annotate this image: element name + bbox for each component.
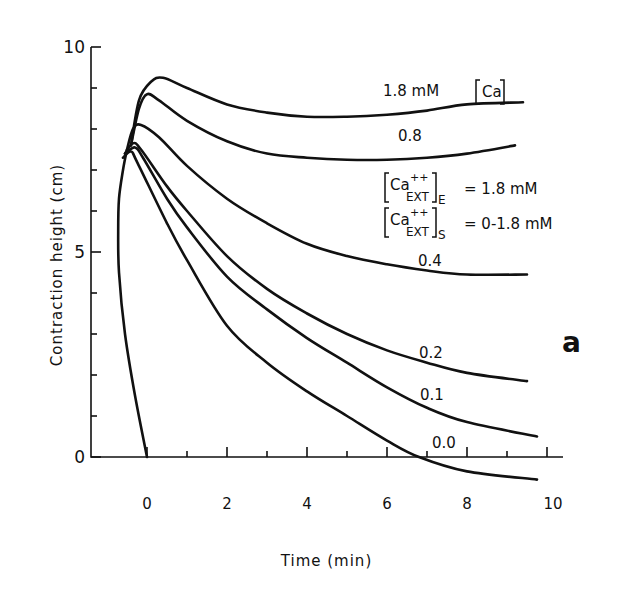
x-tick-label: 4 <box>302 495 312 513</box>
svg-text:++: ++ <box>410 206 428 219</box>
svg-text:EXT: EXT <box>406 190 430 204</box>
svg-text:S: S <box>438 228 446 242</box>
y-tick-label: 10 <box>63 37 85 57</box>
label-0-8: 0.8 <box>398 127 422 145</box>
label-0-0: 0.0 <box>432 434 456 452</box>
svg-text:E: E <box>438 193 446 207</box>
legend-ext-e-value: = 1.8 mM <box>464 180 538 198</box>
curve-0-8 <box>131 94 515 160</box>
curve-0-4 <box>127 124 527 274</box>
x-tick-label: 2 <box>222 495 232 513</box>
y-axis-label: Contraction height (cm) <box>48 164 66 366</box>
data-curves <box>118 77 537 479</box>
label-0-1: 0.1 <box>420 386 444 404</box>
ca-bracket-label: Ca <box>476 80 504 104</box>
x-axis-label: Time (min) <box>0 552 637 570</box>
curve-0-2 <box>125 143 527 381</box>
legend-ext-e: Ca ++ EXT E = 1.8 mM <box>385 171 538 207</box>
panel-label: a <box>562 326 581 359</box>
legend: Ca ++ EXT E = 1.8 mM Ca ++ EXT S = 0-1.8… <box>385 171 552 242</box>
curve-0-0 <box>123 152 537 480</box>
axis-lines <box>91 47 563 457</box>
x-tick-label: 6 <box>382 495 392 513</box>
axes <box>91 47 563 457</box>
legend-ext-s: Ca ++ EXT S = 0-1.8 mM <box>385 206 552 242</box>
label-0-2: 0.2 <box>419 344 443 362</box>
svg-text:Ca: Ca <box>482 83 502 101</box>
chart-canvas: 05100246810 1.8 mM Ca 0.8 0.4 0.2 0.1 0.… <box>0 0 637 601</box>
curve-rising-phase <box>118 150 147 458</box>
legend-ext-s-value: = 0-1.8 mM <box>464 215 552 233</box>
x-tick-label: 8 <box>462 495 472 513</box>
label-0-4: 0.4 <box>418 252 442 270</box>
curve-1-8-mm-ca- <box>131 77 523 145</box>
svg-text:EXT: EXT <box>406 225 430 239</box>
y-tick-label: 0 <box>74 447 85 467</box>
x-tick-label: 10 <box>543 495 562 513</box>
label-1-8: 1.8 mM <box>383 82 439 100</box>
svg-text:++: ++ <box>410 171 428 184</box>
y-tick-label: 5 <box>74 242 85 262</box>
x-tick-label: 0 <box>142 495 152 513</box>
